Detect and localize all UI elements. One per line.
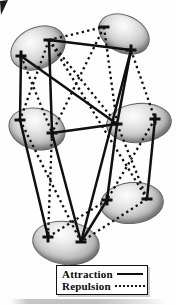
plus-charge-sign-B (126, 45, 137, 56)
attraction-line-sample (117, 273, 143, 275)
legend-row-repulsion: Repulsion (62, 280, 142, 292)
repulsion-line-A---B- (49, 27, 104, 40)
attraction-line-C+--D- (52, 124, 117, 133)
attraction-line-C---F+ (20, 120, 48, 237)
attraction-line-A+--D- (21, 56, 117, 124)
repulsion-line-A---C- (20, 40, 49, 120)
repulsion-line-sample (115, 285, 145, 287)
attraction-line-A---B+ (49, 40, 131, 50)
diagram-svg (0, 0, 176, 305)
legend-row-attraction: Attraction (62, 268, 142, 280)
attraction-line-D+--E- (147, 119, 155, 199)
scan-corner-artifact (0, 0, 14, 18)
attraction-label: Attraction (62, 268, 113, 280)
attraction-line-A+--C- (20, 56, 21, 120)
attraction-line-A---C+ (49, 40, 52, 133)
legend-box: Attraction Repulsion (56, 265, 148, 295)
attraction-line-B+--F- (81, 50, 131, 242)
repulsion-line-B+--D+ (131, 50, 155, 119)
repulsion-line-D---E- (117, 124, 147, 199)
plus-charge-sign-C (47, 128, 58, 139)
attraction-line-E+--F- (81, 200, 107, 242)
repulsion-label: Repulsion (62, 280, 111, 292)
attraction-line-C+--F- (52, 133, 81, 242)
figure-canvas: Attraction Repulsion (0, 0, 176, 305)
repulsion-line-C+--F+ (48, 133, 52, 237)
plus-charge-sign-D (150, 114, 161, 125)
plus-charge-sign-F (43, 232, 54, 243)
